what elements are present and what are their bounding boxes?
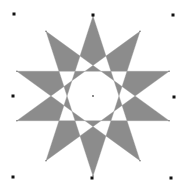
vertex-node [139,160,140,161]
resize-handle-top-left[interactable] [13,13,16,16]
resize-handle-bottom-right[interactable] [170,177,173,180]
vertex-node [92,175,93,176]
resize-handle-top-right[interactable] [172,14,175,17]
vertex-node [16,120,17,121]
vertex-node [45,31,46,32]
vertex-node [139,31,140,32]
vertex-node [45,160,46,161]
drawing-canvas[interactable] [0,0,189,187]
vertex-node [16,71,17,72]
vertex-node [168,71,169,72]
center-marker [92,95,94,97]
resize-handle-right[interactable] [173,96,176,99]
resize-handle-top[interactable] [92,14,95,17]
resize-handle-bottom-left[interactable] [12,176,15,179]
resize-handle-left[interactable] [12,95,15,98]
resize-handle-bottom[interactable] [91,177,94,180]
vertex-node [168,120,169,121]
